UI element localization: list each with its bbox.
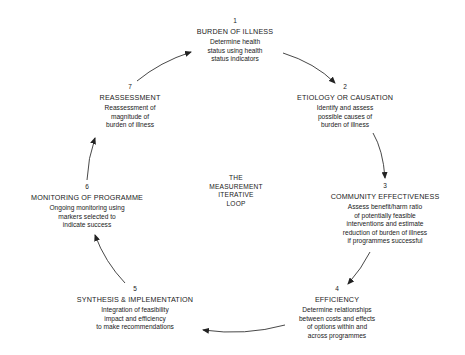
node-etiology-or-causation: 2 ETIOLOGY OR CAUSATION Identify and ass… (297, 83, 393, 130)
description-line: markers selected to (31, 213, 143, 222)
description-line: Integration of feasibility (77, 306, 193, 315)
node-burden-of-illness: 1 BURDEN OF ILLNESS Determine health sta… (197, 17, 273, 64)
description-line: of options within and (299, 323, 375, 332)
node-number: 5 (77, 285, 193, 295)
node-title: EFFICIENCY (299, 295, 375, 304)
node-description: Ongoing monitoring using markers selecte… (31, 204, 143, 230)
arrow-7-to-1 (137, 52, 191, 81)
arrow-1-to-2 (283, 53, 335, 83)
description-line: Ongoing monitoring using (31, 204, 143, 213)
arrow-4-to-5 (203, 325, 285, 332)
description-line: between costs and effects (299, 315, 375, 324)
node-number: 6 (31, 183, 143, 193)
node-description: Identify and assess possible causes of b… (297, 104, 393, 130)
node-number: 7 (100, 83, 161, 93)
description-line: to make recommendations (77, 323, 193, 332)
description-line: status using health (197, 47, 273, 56)
node-number: 1 (197, 17, 273, 27)
description-line: reduction of burden of illness (331, 229, 440, 238)
description-line: Identify and assess (297, 104, 393, 113)
description-line: across programmes (299, 332, 375, 341)
node-efficiency: 4 EFFICIENCY Determine relationships bet… (299, 285, 375, 340)
description-line: impact and efficiency (77, 315, 193, 324)
description-line: of potentially feasible (331, 212, 440, 221)
description-line: indicate success (31, 221, 143, 230)
description-line: Assess benefit/harm ratio (331, 203, 440, 212)
center-label-line: ITERATIVE (209, 191, 263, 200)
node-title: ETIOLOGY OR CAUSATION (297, 93, 393, 102)
description-line: burden of illness (100, 121, 161, 130)
node-title: REASSESSMENT (100, 93, 161, 102)
arrow-6-to-7 (87, 138, 95, 180)
description-line: interventions and estimate (331, 220, 440, 229)
node-description: Determine health status using health sta… (197, 38, 273, 64)
description-line: possible causes of (297, 113, 393, 122)
node-number: 4 (299, 285, 375, 295)
description-line: status indicators (197, 55, 273, 64)
arrow-5-to-6 (95, 235, 125, 283)
arrow-3-to-4 (348, 252, 370, 284)
description-line: Determine relationships (299, 306, 375, 315)
node-description: Reassessment of magnitude of burden of i… (100, 104, 161, 130)
node-number: 3 (331, 182, 440, 192)
center-label-line: THE (209, 174, 263, 183)
node-description: Integration of feasibility impact and ef… (77, 306, 193, 332)
node-title: SYNTHESIS & IMPLEMENTATION (77, 295, 193, 304)
center-label-line: LOOP (209, 200, 263, 209)
node-title: BURDEN OF ILLNESS (197, 27, 273, 36)
node-synthesis-and-implementation: 5 SYNTHESIS & IMPLEMENTATION Integration… (77, 285, 193, 332)
node-description: Assess benefit/harm ratio of potentially… (331, 203, 440, 246)
node-number: 2 (297, 83, 393, 93)
description-line: Determine health (197, 38, 273, 47)
node-community-effectiveness: 3 COMMUNITY EFFECTIVENESS Assess benefit… (331, 182, 440, 246)
description-line: if programmes successful (331, 237, 440, 246)
node-description: Determine relationships between costs an… (299, 306, 375, 340)
arrow-2-to-3 (373, 133, 385, 178)
node-monitoring-of-programme: 6 MONITORING OF PROGRAMME Ongoing monito… (31, 183, 143, 230)
node-title: COMMUNITY EFFECTIVENESS (331, 192, 440, 201)
node-title: MONITORING OF PROGRAMME (31, 193, 143, 202)
description-line: Reassessment of (100, 104, 161, 113)
center-label-line: MEASUREMENT (209, 183, 263, 192)
node-reassessment: 7 REASSESSMENT Reassessment of magnitude… (100, 83, 161, 130)
description-line: burden of illness (297, 121, 393, 130)
description-line: magnitude of (100, 113, 161, 122)
center-label: THE MEASUREMENT ITERATIVE LOOP (209, 174, 263, 208)
